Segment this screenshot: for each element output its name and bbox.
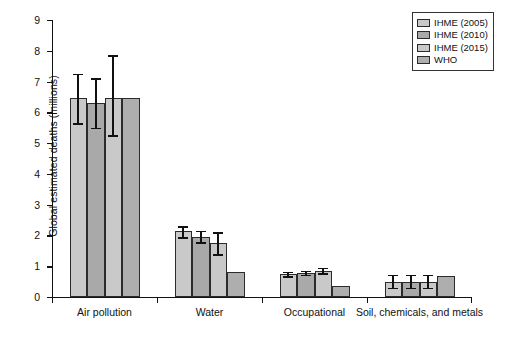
legend-swatch bbox=[417, 31, 430, 39]
legend-item[interactable]: IHME (2010) bbox=[417, 29, 488, 41]
bar[interactable] bbox=[437, 276, 455, 297]
y-axis-tick: 5 bbox=[47, 143, 52, 144]
error-bar-cap bbox=[213, 254, 223, 256]
bar[interactable] bbox=[192, 237, 210, 297]
y-axis-tick-label: 5 bbox=[34, 138, 40, 149]
caption-remnant bbox=[0, 324, 518, 337]
bar[interactable] bbox=[87, 103, 105, 297]
error-bar-cap bbox=[73, 74, 83, 76]
y-axis-tick: 7 bbox=[47, 82, 52, 83]
y-axis-tick: 8 bbox=[47, 51, 52, 52]
y-axis-tick: 3 bbox=[47, 205, 52, 206]
x-axis-tick bbox=[262, 297, 263, 303]
legend-item[interactable]: IHME (2005) bbox=[417, 17, 488, 29]
bar[interactable] bbox=[175, 231, 193, 297]
bar[interactable] bbox=[297, 273, 315, 297]
bar[interactable] bbox=[122, 98, 140, 297]
error-bar-cap bbox=[388, 275, 398, 277]
y-axis-tick-label: 9 bbox=[34, 15, 40, 26]
legend-item[interactable]: WHO bbox=[417, 54, 488, 66]
error-bar-cap bbox=[178, 226, 188, 228]
error-bar bbox=[182, 226, 184, 237]
error-bar-cap bbox=[108, 135, 118, 137]
error-bar-cap bbox=[178, 237, 188, 239]
plot-area: 0123456789 Air pollutionWaterOccupationa… bbox=[52, 20, 472, 297]
bar[interactable] bbox=[332, 286, 350, 297]
x-axis-tick bbox=[52, 297, 53, 303]
legend-swatch bbox=[417, 44, 430, 52]
bar[interactable] bbox=[70, 98, 88, 297]
error-bar-cap bbox=[283, 276, 293, 278]
error-bar bbox=[112, 55, 114, 135]
error-bar-cap bbox=[91, 128, 101, 130]
x-axis-category-label: Occupational bbox=[284, 306, 345, 318]
y-axis-tick: 1 bbox=[47, 266, 52, 267]
error-bar-cap bbox=[73, 123, 83, 125]
error-bar-cap bbox=[318, 273, 328, 275]
error-bar bbox=[392, 275, 394, 288]
y-axis-tick-label: 0 bbox=[34, 292, 40, 303]
bar[interactable] bbox=[315, 271, 333, 297]
legend-label: IHME (2005) bbox=[434, 18, 488, 28]
legend: IHME (2005)IHME (2010)IHME (2015)WHO bbox=[412, 12, 494, 71]
legend-label: WHO bbox=[434, 55, 457, 65]
x-axis-category-label: Water bbox=[196, 306, 224, 318]
error-bar-cap bbox=[196, 242, 206, 244]
legend-swatch bbox=[417, 19, 430, 27]
legend-item[interactable]: IHME (2015) bbox=[417, 42, 488, 54]
x-axis-tick bbox=[157, 297, 158, 303]
error-bar-cap bbox=[423, 288, 433, 290]
legend-label: IHME (2015) bbox=[434, 43, 488, 53]
y-axis-tick-label: 7 bbox=[34, 76, 40, 87]
error-bar-cap bbox=[213, 232, 223, 234]
y-axis-tick: 2 bbox=[47, 235, 52, 236]
error-bar-cap bbox=[318, 268, 328, 270]
legend-label: IHME (2010) bbox=[434, 30, 488, 40]
error-bar-cap bbox=[301, 275, 311, 277]
error-bar-cap bbox=[423, 275, 433, 277]
error-bar-cap bbox=[196, 231, 206, 233]
error-bar-cap bbox=[91, 78, 101, 80]
y-axis-tick: 4 bbox=[47, 174, 52, 175]
error-bar bbox=[427, 275, 429, 288]
bar[interactable] bbox=[227, 272, 245, 297]
error-bar bbox=[217, 232, 219, 254]
x-axis-tick bbox=[367, 297, 368, 303]
y-axis-tick-label: 1 bbox=[34, 261, 40, 272]
error-bar-cap bbox=[388, 288, 398, 290]
y-axis-tick: 6 bbox=[47, 112, 52, 113]
x-axis-category-label: Air pollution bbox=[77, 306, 132, 318]
error-bar bbox=[95, 78, 97, 127]
error-bar-cap bbox=[283, 272, 293, 274]
error-bar bbox=[77, 74, 79, 123]
error-bar-cap bbox=[301, 271, 311, 273]
legend-swatch bbox=[417, 56, 430, 64]
y-axis-tick-label: 2 bbox=[34, 230, 40, 241]
error-bar-cap bbox=[406, 275, 416, 277]
y-axis-tick: 9 bbox=[47, 20, 52, 21]
error-bar-cap bbox=[108, 55, 118, 57]
x-axis-tick bbox=[471, 297, 472, 303]
y-axis-tick-label: 6 bbox=[34, 107, 40, 118]
y-axis-line bbox=[52, 20, 53, 297]
error-bar-cap bbox=[406, 288, 416, 290]
error-bar bbox=[200, 231, 202, 242]
x-axis-category-label: Soil, chemicals, and metals bbox=[356, 306, 483, 318]
figure: Global estimated deaths (millions) 01234… bbox=[0, 0, 518, 337]
y-axis-tick-label: 4 bbox=[34, 169, 40, 180]
y-axis-tick-label: 3 bbox=[34, 199, 40, 210]
error-bar bbox=[410, 275, 412, 288]
y-axis-tick-label: 8 bbox=[34, 46, 40, 57]
